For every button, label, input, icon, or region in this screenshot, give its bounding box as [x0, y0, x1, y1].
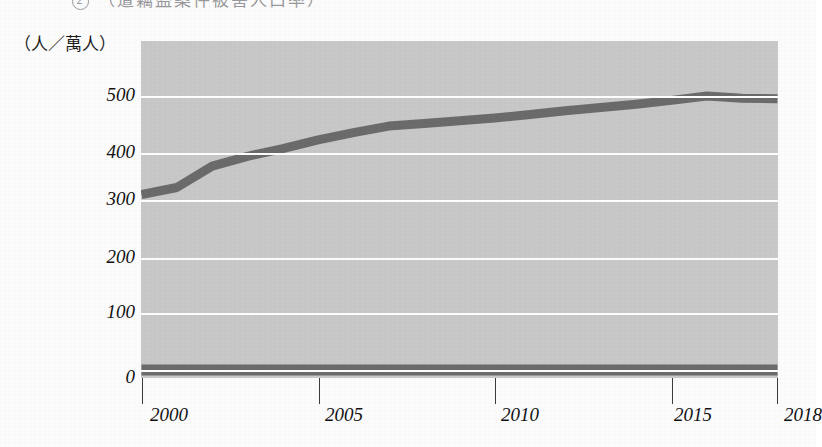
chart-plot-area [141, 41, 778, 378]
y-axis-tick-labels: 0 100 200 300 400 500 [63, 41, 135, 378]
x-tick-2000: 2000 [150, 404, 188, 426]
gridline-0 [141, 370, 778, 372]
x-axis-tick-labels: 2000 2005 2010 2015 2018 [141, 378, 778, 438]
page-heading-strip: 2（遭竊盜案件被害人口率） [0, 0, 816, 14]
gridline-500 [141, 96, 778, 98]
heading-number-badge: 2 [72, 0, 89, 10]
gridline-200 [141, 258, 778, 260]
series-line-victim-rate [142, 96, 778, 195]
x-tickmark-2000 [142, 378, 143, 404]
y-tick-200: 200 [73, 246, 135, 268]
gridline-400 [141, 153, 778, 155]
x-tick-2005: 2005 [325, 404, 363, 426]
x-tickmark-2015 [672, 378, 673, 404]
y-tick-100: 100 [73, 301, 135, 323]
x-tick-2010: 2010 [501, 404, 539, 426]
x-tickmark-2005 [319, 378, 320, 404]
x-tick-2015: 2015 [674, 404, 712, 426]
y-tick-400: 400 [73, 141, 135, 163]
page-heading: 2（遭竊盜案件被害人口率） [72, 0, 326, 11]
gridline-300 [141, 200, 778, 202]
x-tickmark-2010 [495, 378, 496, 404]
heading-text: （遭竊盜案件被害人口率） [98, 0, 326, 10]
gridline-100 [141, 313, 778, 315]
y-tick-300: 300 [73, 188, 135, 210]
chart-series-layer [141, 41, 778, 378]
y-tick-500: 500 [73, 84, 135, 106]
x-tick-2018: 2018 [784, 404, 822, 426]
x-tickmark-2018 [777, 378, 778, 404]
y-tick-0: 0 [73, 366, 135, 388]
